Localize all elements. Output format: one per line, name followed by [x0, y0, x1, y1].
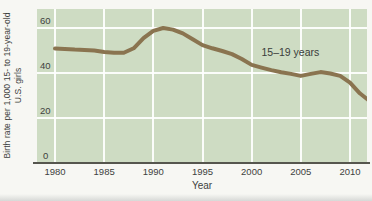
x-tick-2005: 2005 — [279, 166, 323, 177]
x-axis-title: Year — [180, 180, 224, 191]
x-tick-2000: 2000 — [230, 166, 274, 177]
y-tick-0: 0 — [43, 151, 48, 161]
series-label: 15–19 years — [262, 46, 320, 58]
y-tick-20: 20 — [40, 106, 51, 116]
x-tick-2010: 2010 — [328, 166, 372, 177]
x-tick-1985: 1985 — [82, 166, 126, 177]
x-tick-1995: 1995 — [181, 166, 225, 177]
y-tick-60: 60 — [40, 16, 51, 26]
x-tick-1980: 1980 — [33, 166, 77, 177]
y-axis-title-line2: U.S. girls — [13, 0, 24, 176]
y-tick-40: 40 — [40, 61, 51, 71]
series-line-15-19-years — [55, 28, 367, 101]
x-tick-1990: 1990 — [131, 166, 175, 177]
plot-area: 0204060 — [37, 9, 367, 162]
chart-figure: Birth rate per 1,000 15- to 19-year-old … — [0, 0, 372, 201]
page-shadow — [0, 194, 372, 201]
y-axis-title: Birth rate per 1,000 15- to 19-year-old … — [2, 0, 23, 176]
y-axis-title-line1: Birth rate per 1,000 15- to 19-year-old — [2, 0, 13, 176]
x-axis-line — [33, 162, 370, 164]
birth-rate-line-chart — [37, 9, 367, 162]
